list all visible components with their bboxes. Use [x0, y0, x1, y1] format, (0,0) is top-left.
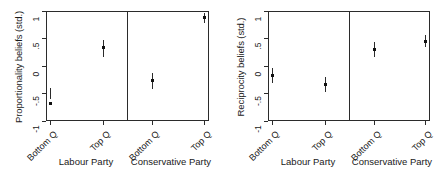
x-tick [152, 121, 153, 125]
x-tick [425, 121, 426, 125]
y-tick-label: .5 [252, 38, 264, 54]
point-marker [102, 46, 105, 49]
plot-area [268, 11, 430, 121]
figure-two-panel-coefficient-plot: Proportionality beliefs (std.) 1 .5 0 -.… [0, 0, 440, 174]
point-marker [424, 40, 427, 43]
y-tick [264, 11, 268, 12]
y-tick [42, 11, 46, 12]
group-label-conservative: Conservative Party [344, 156, 440, 168]
y-tick-label: 1 [30, 11, 42, 27]
point-marker [49, 102, 52, 105]
x-tick [204, 121, 205, 125]
y-tick [42, 38, 46, 39]
point-marker [203, 16, 206, 19]
point-marker [324, 83, 327, 86]
point-marker [151, 79, 154, 82]
x-tick [374, 121, 375, 125]
y-tick [264, 66, 268, 67]
plot-area [46, 11, 209, 121]
y-axis-title: Proportionality beliefs (std.) [13, 7, 25, 127]
y-axis-title: Reciprocity beliefs (std.) [235, 7, 247, 127]
x-tick [272, 121, 273, 125]
x-tick [50, 121, 51, 125]
x-tick [103, 121, 104, 125]
facet-divider [349, 12, 350, 120]
y-tick-label: -.5 [252, 93, 264, 109]
group-label-conservative: Conservative Party [123, 156, 219, 168]
y-tick-label: -.5 [30, 93, 42, 109]
panel-proportionality-beliefs: Proportionality beliefs (std.) 1 .5 0 -.… [0, 0, 220, 174]
y-tick [264, 121, 268, 122]
y-tick [264, 38, 268, 39]
y-tick-label: 0 [30, 66, 42, 82]
confidence-interval [50, 88, 51, 99]
group-label-labour: Labour Party [46, 156, 126, 168]
facet-divider [127, 12, 128, 120]
y-tick [42, 66, 46, 67]
y-tick [42, 93, 46, 94]
x-tick [325, 121, 326, 125]
group-label-labour: Labour Party [268, 156, 348, 168]
y-tick [264, 93, 268, 94]
point-marker [271, 74, 274, 77]
point-marker [373, 48, 376, 51]
panel-reciprocity-beliefs: Reciprocity beliefs (std.) 1 .5 0 -.5 -1… [220, 0, 440, 174]
y-tick-label: .5 [30, 38, 42, 54]
y-tick-label: -1 [30, 121, 42, 137]
y-tick-label: -1 [252, 121, 264, 137]
y-tick [42, 121, 46, 122]
y-tick-label: 1 [252, 11, 264, 27]
y-tick-label: 0 [252, 66, 264, 82]
